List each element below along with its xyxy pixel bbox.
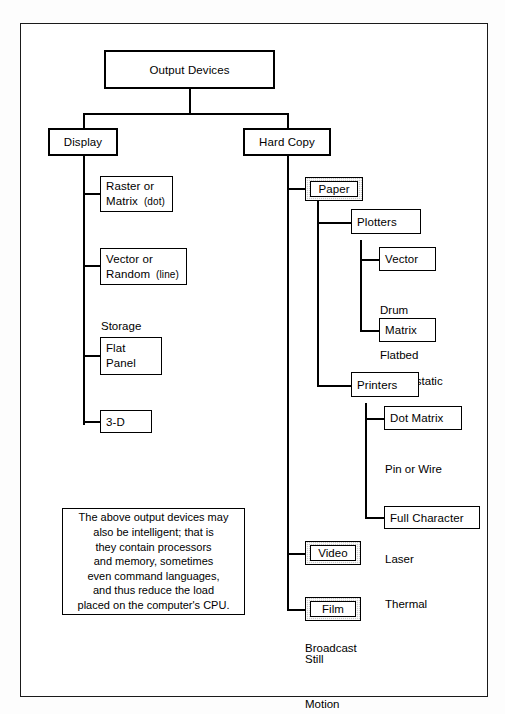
node-raster-qualifier: (dot) (138, 196, 165, 207)
node-vector-random-line1: Vector or (106, 252, 179, 267)
caption-storage: Storage (101, 319, 141, 334)
node-plotter-vector-label: Vector (385, 252, 418, 266)
node-output-devices[interactable]: Output Devices (104, 50, 275, 89)
node-display[interactable]: Display (48, 128, 118, 156)
note-line-2: also be intelligent; that is (93, 525, 213, 540)
node-flat-panel[interactable]: Flat Panel (100, 337, 162, 375)
node-raster-line1: Raster or (106, 179, 165, 194)
node-paper[interactable]: Paper (305, 177, 363, 201)
connector-hardcopy-drop (287, 113, 289, 128)
note-line-3: they contain processors (95, 540, 211, 555)
caption-laser: Laser (385, 552, 442, 567)
connector-display-spine (83, 155, 85, 425)
node-full-character[interactable]: Full Character (384, 506, 480, 529)
node-dot-matrix[interactable]: Dot Matrix (384, 406, 462, 430)
node-hard-copy-label: Hard Copy (259, 135, 315, 149)
connector-printers-to-fullchar (365, 517, 384, 519)
note-box: The above output devices may also be int… (62, 508, 245, 615)
connector-display-to-vector (83, 265, 101, 267)
node-printers[interactable]: Printers (351, 372, 419, 397)
caption-still: Still (305, 652, 340, 667)
node-dot-matrix-label: Dot Matrix (390, 411, 443, 425)
connector-plotters-to-matrix (360, 330, 379, 332)
note-line-5: even command languages, (87, 569, 219, 584)
node-3d[interactable]: 3-D (100, 410, 152, 433)
note-line-7: placed on the computer's CPU. (78, 598, 230, 613)
node-plotter-matrix[interactable]: Matrix (379, 318, 436, 342)
diagram-canvas: Output Devices Display Hard Copy Raster … (0, 0, 505, 714)
node-vector-or-random-lines: Vector or Random(line) (106, 252, 179, 282)
node-full-character-label: Full Character (390, 511, 464, 525)
connector-root-stem (189, 89, 191, 114)
node-flat-panel-lines: Flat Panel (106, 341, 136, 371)
node-vector-random-line2: Random(line) (106, 267, 179, 282)
caption-drum: Drum (380, 303, 418, 318)
connector-hardcopy-spine (287, 155, 289, 610)
note-line-4: and memory, sometimes (94, 554, 214, 569)
connector-hardcopy-to-video (287, 553, 306, 555)
node-printers-label: Printers (357, 378, 397, 392)
node-film[interactable]: Film (305, 597, 361, 621)
node-display-label: Display (64, 135, 102, 149)
caption-thermal: Thermal (385, 597, 442, 612)
node-raster-line2: Matrix(dot) (106, 194, 165, 209)
node-plotters[interactable]: Plotters (351, 209, 421, 234)
node-flat-panel-line2: Panel (106, 356, 136, 371)
connector-paper-spine (317, 201, 319, 386)
node-vector-random-qualifier: (line) (150, 269, 179, 280)
node-video[interactable]: Video (305, 541, 361, 565)
connector-paper-to-plotters (317, 222, 351, 224)
connector-root-bus (83, 113, 288, 115)
node-film-label: Film (310, 601, 356, 617)
node-plotter-matrix-label: Matrix (385, 323, 417, 337)
node-raster-or-matrix-lines: Raster or Matrix(dot) (106, 179, 165, 209)
connector-display-to-3d (83, 421, 101, 423)
connector-paper-to-printers (317, 385, 351, 387)
node-raster-or-matrix[interactable]: Raster or Matrix(dot) (100, 176, 173, 212)
connector-display-drop (83, 113, 85, 128)
connector-hardcopy-to-paper (287, 188, 306, 190)
caption-dot-matrix-detail: Pin or Wire Ink Jet Laser Thermal (385, 432, 442, 642)
connector-display-to-raster (83, 193, 101, 195)
node-plotter-vector[interactable]: Vector (379, 247, 436, 271)
connector-plotters-to-vector (360, 259, 379, 261)
connector-display-to-flatpanel (83, 355, 101, 357)
caption-film-detail: Still Motion (305, 622, 340, 714)
note-line-1: The above output devices may (79, 510, 229, 525)
node-flat-panel-line1: Flat (106, 341, 136, 356)
node-output-devices-label: Output Devices (149, 63, 229, 77)
connector-hardcopy-to-film (287, 609, 306, 611)
connector-plotters-spine (360, 240, 362, 331)
node-plotters-label: Plotters (357, 215, 397, 229)
node-hard-copy[interactable]: Hard Copy (243, 128, 331, 156)
note-line-6: and thus reduce the load (93, 583, 214, 598)
node-paper-label: Paper (310, 181, 358, 197)
caption-pin-or-wire: Pin or Wire (385, 462, 442, 477)
node-vector-or-random[interactable]: Vector or Random(line) (100, 248, 187, 285)
caption-motion: Motion (305, 697, 340, 712)
node-video-label: Video (310, 545, 356, 561)
node-3d-label: 3-D (106, 415, 125, 429)
connector-printers-spine (365, 403, 367, 518)
